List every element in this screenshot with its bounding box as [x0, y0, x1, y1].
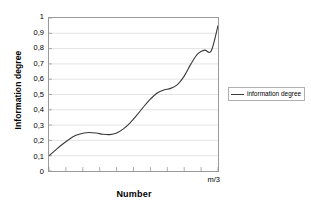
data-series-line: [49, 26, 218, 156]
y-axis-tick-label: 0,2: [20, 137, 44, 145]
y-axis-tick-label: 0,9: [20, 29, 44, 37]
y-axis-ticks: [49, 18, 52, 171]
y-axis-tick-label: 0,7: [20, 60, 44, 68]
legend-line-swatch: [231, 94, 244, 95]
x-axis-title: Number: [48, 189, 220, 199]
y-axis-tick-label: 0,4: [20, 106, 44, 114]
chart-legend: information degree: [228, 87, 305, 101]
plot-svg: [49, 18, 218, 171]
x-axis-ticks: [49, 167, 218, 171]
y-axis-tick-label: 0: [20, 168, 44, 176]
plot-area: [48, 17, 219, 172]
legend-entry-label: information degree: [247, 90, 301, 98]
y-axis-tick-label: 0,5: [20, 91, 44, 99]
y-axis-tick-label: 1: [20, 13, 44, 21]
gridlines: [49, 33, 218, 155]
y-axis-tick-label: 0,1: [20, 153, 44, 161]
y-axis-tick-label: 0,8: [20, 44, 44, 52]
y-axis-tick-label: 0,3: [20, 122, 44, 130]
x-axis-end-annotation: m/3: [188, 175, 220, 184]
chart-container: Information degree 10,90,80,70,60,50,40,…: [0, 0, 311, 209]
y-axis-tick-label: 0,6: [20, 75, 44, 83]
y-axis-tick-labels: 10,90,80,70,60,50,40,30,20,10: [20, 12, 44, 177]
